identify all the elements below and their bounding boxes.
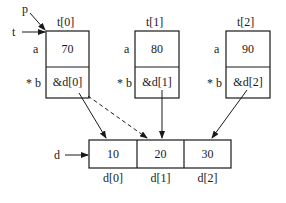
struct-t1-b-value: &d[1] <box>135 67 179 98</box>
pointer-p-arrow <box>30 13 45 30</box>
array-d0-value: 10 <box>89 140 137 168</box>
array-label-d1: d[1] <box>137 170 184 186</box>
struct-t2-b-value: &d[2] <box>226 67 270 98</box>
struct-t2-a-value: 90 <box>226 31 270 67</box>
pointer-d-label: d <box>54 148 60 162</box>
array-d1-value: 20 <box>137 140 184 168</box>
struct-name-t1: t[1] <box>146 15 163 29</box>
field-b-label-t2: * b <box>207 76 222 90</box>
array-d2-value: 30 <box>184 140 231 168</box>
array-label-d0: d[0] <box>89 170 137 186</box>
field-a-label-t1: a <box>124 42 129 56</box>
array-label-d2: d[2] <box>184 170 231 186</box>
struct-t1-a-value: 80 <box>135 31 179 67</box>
pointer-t-label: t <box>12 25 15 39</box>
field-a-label-t0: a <box>33 42 38 56</box>
field-b-label-t0: * b <box>26 76 41 90</box>
field-a-label-t2: a <box>214 42 219 56</box>
struct-t0-a-value: 70 <box>46 31 89 67</box>
struct-name-t0: t[0] <box>57 15 74 29</box>
struct-t0-b-value: &d[0] <box>46 67 89 98</box>
arrow-b0-to-d0 <box>79 93 106 138</box>
dashed-arrow-to-d1 <box>88 96 147 138</box>
pointer-p-label: p <box>22 2 28 16</box>
struct-name-t2: t[2] <box>237 15 254 29</box>
field-b-label-t1: * b <box>117 76 132 90</box>
